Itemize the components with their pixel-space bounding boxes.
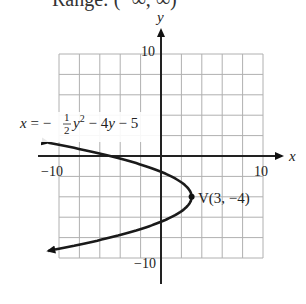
vertex-label: V(3, −4) [198, 190, 250, 207]
x-max-tick-label: 10 [254, 164, 268, 179]
y-axis-label: y [155, 9, 164, 25]
parabola-graph: x y 10 −10 −10 10 V(3, −4) x = − 1 2 y2 … [0, 0, 306, 304]
x-min-tick-label: −10 [41, 164, 63, 179]
x-axis-label: x [288, 148, 296, 164]
svg-text:1: 1 [64, 111, 70, 123]
y-max-tick-label: 10 [141, 44, 155, 59]
vertex-point [189, 194, 195, 200]
svg-text:x = −: x = − [19, 115, 51, 131]
y-min-tick-label: −10 [134, 256, 156, 271]
svg-text:2: 2 [64, 124, 70, 136]
